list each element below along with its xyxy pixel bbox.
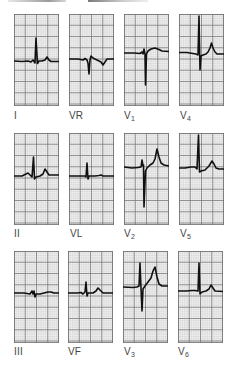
lead-label: III	[14, 347, 23, 357]
ecg-grid-v6	[178, 251, 223, 343]
page-edge-artifact	[0, 0, 236, 4]
lead-label: V5	[180, 229, 191, 239]
ecg-panel-iii	[14, 251, 59, 343]
ecg-panel-v2	[124, 133, 169, 225]
ecg-panel-v4	[179, 14, 224, 106]
ecg-grid-v3	[123, 251, 168, 343]
edge-shadow-left	[8, 0, 66, 2]
ecg-grid-vr	[69, 14, 114, 106]
ecg-panel-v3	[123, 251, 168, 343]
ecg-panel-vr	[69, 14, 114, 106]
lead-label: V2	[124, 229, 135, 239]
ecg-panel-v5	[179, 133, 224, 225]
lead-label: II	[14, 229, 20, 239]
ecg-grid-v4	[179, 14, 224, 106]
lead-label: V3	[124, 347, 135, 357]
ecg-grid-v1	[124, 14, 169, 106]
ecg-grid-ii	[14, 133, 59, 225]
ecg-grid-i	[14, 14, 59, 106]
ecg-grid-vl	[69, 133, 114, 225]
lead-label: VR	[69, 111, 83, 121]
ecg-panel-i	[14, 14, 59, 106]
lead-label: V6	[178, 347, 189, 357]
ecg-panel-vl	[69, 133, 114, 225]
ecg-grid-iii	[14, 251, 59, 343]
ecg-grid-v5	[179, 133, 224, 225]
ecg-panel-v6	[178, 251, 223, 343]
ecg-panel-vf	[68, 251, 113, 343]
edge-shadow-right	[88, 0, 148, 2]
ecg-grid-vf	[68, 251, 113, 343]
lead-label: V4	[180, 111, 191, 121]
lead-label: VL	[70, 229, 83, 239]
ecg-grid-v2	[124, 133, 169, 225]
ecg-panel-ii	[14, 133, 59, 225]
lead-label: V1	[124, 111, 135, 121]
lead-label: VF	[68, 347, 81, 357]
lead-label: I	[14, 111, 17, 121]
ecg-panel-v1	[124, 14, 169, 106]
